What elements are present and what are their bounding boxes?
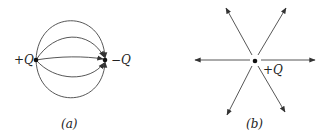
caption-a: (a) (61, 118, 78, 130)
negative-charge-label: −Q (111, 54, 131, 66)
point-charge-label: +Q (263, 64, 283, 76)
dipole-field-lines (36, 21, 105, 98)
point-charge-dot (253, 59, 258, 64)
positive-charge-dot (34, 58, 39, 63)
negative-charge-dot (103, 58, 108, 63)
positive-charge-label: +Q (14, 54, 34, 66)
caption-b: (b) (246, 118, 263, 130)
figure-canvas: +Q −Q (a) +Q (b) (0, 0, 329, 138)
